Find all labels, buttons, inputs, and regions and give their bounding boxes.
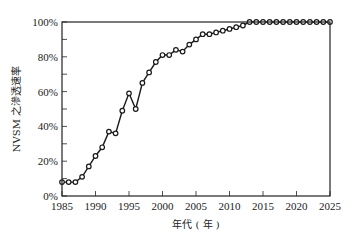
x-axis-ticks: 198519901995200020052010201520202025 — [51, 191, 342, 212]
y-tick-label: 60% — [38, 86, 58, 98]
series-line — [62, 22, 330, 182]
x-tick-label: 2015 — [252, 200, 275, 212]
plot-frame — [62, 22, 330, 196]
x-axis-label: 年代 ( 年 ) — [172, 218, 219, 230]
data-point-marker — [180, 49, 185, 54]
x-tick-label: 2010 — [219, 200, 242, 212]
data-point-marker — [227, 27, 232, 32]
data-point-marker — [187, 42, 192, 47]
data-point-marker — [66, 180, 71, 185]
data-point-marker — [147, 70, 152, 75]
data-point-marker — [234, 25, 239, 30]
data-point-marker — [87, 164, 92, 169]
data-point-marker — [100, 145, 105, 150]
data-series — [60, 20, 333, 185]
x-tick-label: 2005 — [185, 200, 208, 212]
data-point-marker — [200, 32, 205, 37]
data-point-marker — [214, 30, 219, 35]
y-tick-label: 20% — [38, 155, 58, 167]
data-point-marker — [221, 28, 226, 33]
y-tick-label: 40% — [38, 120, 58, 132]
data-point-marker — [120, 108, 125, 113]
data-point-marker — [93, 154, 98, 159]
y-axis-label: NVSM 之滲透速率 — [10, 66, 22, 152]
x-tick-label: 1990 — [85, 200, 108, 212]
data-point-marker — [167, 53, 172, 58]
data-point-marker — [194, 37, 199, 42]
data-point-marker — [140, 81, 145, 86]
data-point-marker — [73, 180, 78, 185]
x-tick-label: 1985 — [51, 200, 74, 212]
data-point-marker — [107, 129, 112, 134]
y-tick-label: 80% — [38, 51, 58, 63]
data-point-marker — [127, 91, 132, 96]
data-point-marker — [113, 131, 118, 136]
data-point-marker — [133, 107, 138, 112]
y-tick-label: 100% — [32, 16, 58, 28]
x-tick-label: 2000 — [152, 200, 175, 212]
data-point-marker — [174, 48, 179, 53]
data-point-marker — [160, 53, 165, 58]
x-tick-label: 2020 — [286, 200, 309, 212]
line-chart: 0%20%40%60%80%100% 198519901995200020052… — [0, 0, 353, 235]
x-tick-label: 1995 — [118, 200, 141, 212]
data-point-marker — [207, 32, 212, 37]
data-point-marker — [80, 175, 85, 180]
x-tick-label: 2025 — [319, 200, 342, 212]
data-point-marker — [154, 60, 159, 65]
data-point-marker — [241, 23, 246, 28]
